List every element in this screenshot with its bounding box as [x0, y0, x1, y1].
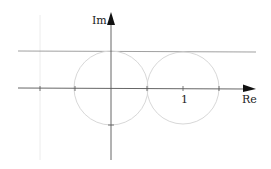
imaginary-axis-arrow-icon: [107, 12, 115, 25]
real-axis-arrow-icon: [243, 85, 256, 93]
complex-plane-diagram: Im Re 1: [0, 0, 271, 169]
horizontal-line-im-half: [18, 51, 256, 52]
tick-label-one: 1: [181, 93, 188, 106]
im-label: Im: [92, 14, 107, 27]
re-label: Re: [242, 93, 257, 106]
real-axis: [18, 88, 246, 89]
